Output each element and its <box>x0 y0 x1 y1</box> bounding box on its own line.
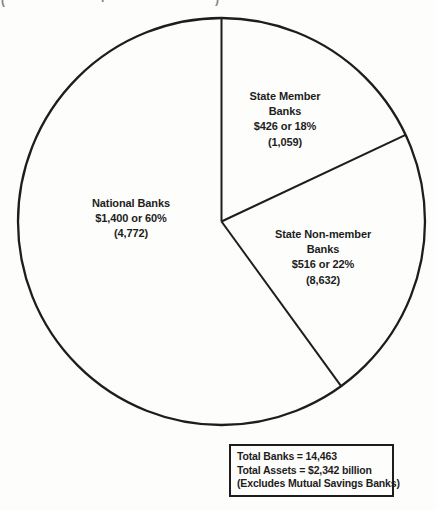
totals-assets-line: Total Assets = $2,342 billion <box>237 464 389 478</box>
slice-value-line: $516 or 22% <box>275 257 371 272</box>
totals-note-line: (Excludes Mutual Savings Banks) <box>237 477 389 491</box>
chart-canvas: ( . ) State Member Banks $426 or 18% (1,… <box>0 0 436 510</box>
slice-name-line: State Non-member <box>275 227 371 242</box>
slice-name-line: Banks <box>250 104 321 119</box>
slice-label-state-non-member-banks: State Non-member Banks $516 or 22% (8,63… <box>275 227 371 288</box>
totals-box: Total Banks = 14,463 Total Assets = $2,3… <box>229 444 394 497</box>
slice-name-line: Banks <box>275 242 371 257</box>
slice-count-line: (4,772) <box>92 226 170 241</box>
slice-label-national-banks: National Banks $1,400 or 60% (4,772) <box>92 196 170 242</box>
slice-value-line: $426 or 18% <box>250 119 321 134</box>
slice-label-state-member-banks: State Member Banks $426 or 18% (1,059) <box>250 89 321 150</box>
slice-count-line: (8,632) <box>275 273 371 288</box>
slice-value-line: $1,400 or 60% <box>92 211 170 226</box>
slice-name-line: National Banks <box>92 196 170 211</box>
slice-name-line: State Member <box>250 89 321 104</box>
totals-banks-line: Total Banks = 14,463 <box>237 450 389 464</box>
slice-count-line: (1,059) <box>250 135 321 150</box>
